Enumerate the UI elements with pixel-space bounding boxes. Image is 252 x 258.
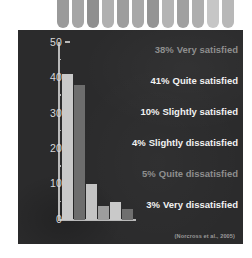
deco-bar xyxy=(132,0,144,28)
deco-bar xyxy=(87,0,99,28)
legend-percent: 38% xyxy=(155,44,174,55)
bar xyxy=(98,206,109,220)
deco-bar xyxy=(147,0,159,28)
deco-bar xyxy=(72,0,84,28)
legend-label: Quite dissatisfied xyxy=(156,168,238,179)
y-axis-minor-tick xyxy=(58,165,61,167)
legend-label: Very satisfied xyxy=(174,44,238,55)
legend-label: Quite satisfied xyxy=(170,75,238,86)
legend-row: 38%Very satisfied xyxy=(118,34,238,65)
legend-label: Slightly dissatisfied xyxy=(146,137,238,148)
deco-bar xyxy=(207,0,219,28)
bar xyxy=(62,74,73,220)
deco-bar xyxy=(57,0,69,28)
legend-percent: 5% xyxy=(142,168,156,179)
legend-percent: 41% xyxy=(151,75,170,86)
legend-row: 5%Quite dissatisfied xyxy=(118,158,238,189)
legend-label: Very dissatisfied xyxy=(160,199,238,210)
bar xyxy=(74,85,85,220)
legend-percent: 4% xyxy=(132,137,146,148)
deco-bar xyxy=(192,0,204,28)
deco-bar xyxy=(117,0,129,28)
deco-bar xyxy=(102,0,114,28)
top-decorative-bar-strip xyxy=(57,0,252,30)
y-axis-minor-tick xyxy=(58,59,61,61)
bar xyxy=(86,184,97,220)
legend-label: Slightly satisfied xyxy=(160,106,239,117)
legend-percent: 3% xyxy=(146,199,160,210)
legend: 38%Very satisfied41%Quite satisfied10%Sl… xyxy=(118,34,238,230)
legend-row: 4%Slightly dissatisfied xyxy=(118,127,238,158)
deco-bar xyxy=(162,0,174,28)
legend-row: 41%Quite satisfied xyxy=(118,65,238,96)
legend-percent: 10% xyxy=(140,106,159,117)
chart-panel: 50403020100 38%Very satisfied41%Quite sa… xyxy=(18,30,243,244)
citation-text: (Norcross et al., 2005) xyxy=(175,233,235,239)
legend-row: 3%Very dissatisfied xyxy=(118,189,238,220)
y-axis-minor-tick xyxy=(58,94,61,96)
y-axis-minor-tick xyxy=(58,201,61,203)
deco-bar xyxy=(177,0,189,28)
legend-row: 10%Slightly satisfied xyxy=(118,96,238,127)
deco-bar xyxy=(222,0,234,28)
y-axis-minor-tick xyxy=(58,130,61,132)
